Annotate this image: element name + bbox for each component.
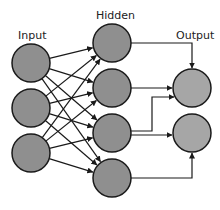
output-node-1 xyxy=(173,69,211,107)
hidden-node-4 xyxy=(93,159,131,197)
input-node-2 xyxy=(12,89,50,127)
edge-input-1-hidden-1 xyxy=(49,48,92,59)
hidden-node-3 xyxy=(93,114,131,152)
edge-hidden-output-5 xyxy=(131,153,192,178)
edge-hidden-output-3 xyxy=(131,97,174,131)
edge-input-3-hidden-4 xyxy=(49,159,93,172)
input-node-3 xyxy=(12,134,50,172)
edge-input-3-hidden-2 xyxy=(46,101,97,142)
nodes xyxy=(12,24,211,197)
edge-hidden-output-1 xyxy=(131,43,192,68)
edge-input-3-hidden-1 xyxy=(42,59,100,138)
output-node-2 xyxy=(173,114,211,152)
hidden-node-2 xyxy=(93,69,131,107)
edges xyxy=(42,43,192,178)
edge-input-3-hidden-3 xyxy=(49,138,92,149)
edge-input-2-hidden-1 xyxy=(46,56,97,97)
input-node-1 xyxy=(12,44,50,82)
network-diagram xyxy=(0,0,220,210)
hidden-node-1 xyxy=(93,24,131,62)
